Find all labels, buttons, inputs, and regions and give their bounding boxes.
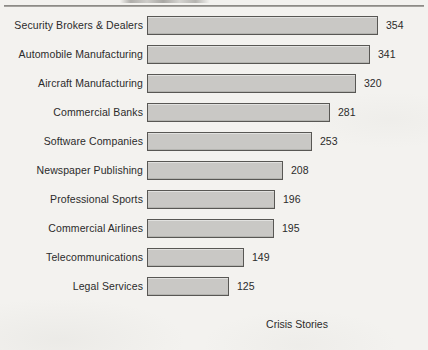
category-label: Newspaper Publishing xyxy=(0,161,143,180)
bar-value-label: 196 xyxy=(283,190,301,209)
bar-row: Commercial Banks281 xyxy=(0,103,428,122)
category-label: Aircraft Manufacturing xyxy=(0,74,143,93)
bar-value-label: 281 xyxy=(338,103,356,122)
bar-track: 208 xyxy=(147,161,428,180)
x-axis-label: Crisis Stories xyxy=(0,318,428,330)
bar-row: Telecommunications149 xyxy=(0,248,428,267)
bar-track: 281 xyxy=(147,103,428,122)
bar-track: 125 xyxy=(147,277,428,296)
bar-row: Security Brokers & Dealers354 xyxy=(0,16,428,35)
category-label: Software Companies xyxy=(0,132,143,151)
category-label: Automobile Manufacturing xyxy=(0,45,143,64)
bar-track: 196 xyxy=(147,190,428,209)
category-label: Professional Sports xyxy=(0,190,143,209)
x-axis-label-text: Crisis Stories xyxy=(266,318,328,330)
bar-value-label: 195 xyxy=(282,219,300,238)
chart-root: Security Brokers & Dealers354Automobile … xyxy=(0,0,428,350)
bar-track: 195 xyxy=(147,219,428,238)
bar xyxy=(147,103,330,122)
bar-value-label: 354 xyxy=(386,16,404,35)
bar-row: Legal Services125 xyxy=(0,277,428,296)
bar-row: Professional Sports196 xyxy=(0,190,428,209)
bar-track: 320 xyxy=(147,74,428,93)
bar-value-label: 320 xyxy=(364,74,382,93)
bar xyxy=(147,248,244,267)
bar-value-label: 341 xyxy=(378,45,396,64)
bar-track: 253 xyxy=(147,132,428,151)
category-label: Telecommunications xyxy=(0,248,143,267)
bar xyxy=(147,74,356,93)
category-label: Commercial Banks xyxy=(0,103,143,122)
bar-value-label: 208 xyxy=(291,161,309,180)
bar xyxy=(147,190,275,209)
bar xyxy=(147,16,378,35)
bar xyxy=(147,132,312,151)
bar-value-label: 149 xyxy=(252,248,270,267)
bar-row: Commercial Airlines195 xyxy=(0,219,428,238)
bar-value-label: 125 xyxy=(237,277,255,296)
bar xyxy=(147,45,370,64)
category-label: Security Brokers & Dealers xyxy=(0,16,143,35)
bar-row: Aircraft Manufacturing320 xyxy=(0,74,428,93)
bar-track: 354 xyxy=(147,16,428,35)
category-label: Legal Services xyxy=(0,277,143,296)
bar-value-label: 253 xyxy=(320,132,338,151)
bar-row: Automobile Manufacturing341 xyxy=(0,45,428,64)
bar xyxy=(147,161,283,180)
bar-track: 341 xyxy=(147,45,428,64)
bar xyxy=(147,219,274,238)
bar-row: Newspaper Publishing208 xyxy=(0,161,428,180)
bar-track: 149 xyxy=(147,248,428,267)
bar-row: Software Companies253 xyxy=(0,132,428,151)
bar xyxy=(147,277,229,296)
category-label: Commercial Airlines xyxy=(0,219,143,238)
bar-chart-plot-area: Security Brokers & Dealers354Automobile … xyxy=(0,0,428,350)
